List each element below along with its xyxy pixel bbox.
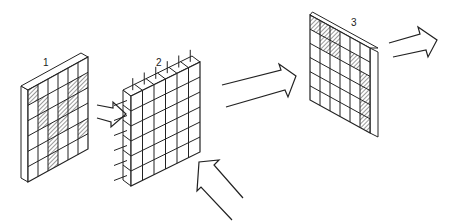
panel-3-label: 3 <box>351 18 357 28</box>
panel-side-face <box>370 48 378 137</box>
panel-side-face <box>21 86 28 182</box>
panel-3 <box>310 12 378 137</box>
arrow-input-below-icon <box>197 160 243 220</box>
optical-processing-diagram <box>0 0 450 222</box>
arrow-output-icon <box>389 27 437 57</box>
panel-1-label: 1 <box>43 58 49 68</box>
panels-layer <box>21 12 378 186</box>
arrow-2-to-3-icon <box>222 64 296 107</box>
panel-2-label: 2 <box>156 58 162 68</box>
panel-2 <box>114 50 200 186</box>
arrow-1-to-2-icon <box>97 102 126 127</box>
panel-1 <box>21 53 88 182</box>
diagram-canvas: 1 2 3 <box>0 0 450 222</box>
